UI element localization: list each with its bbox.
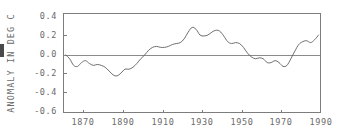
x-tick-label: 1890 — [112, 117, 135, 127]
y-axis-title: ANOMALY IN DEG C — [6, 13, 16, 112]
y-axis-tick-labels: 0.4 0.2 0.0 -0.2 -0.4 -0.6 — [34, 11, 57, 116]
y-tick-label: -0.4 — [34, 87, 57, 97]
plot-frame — [64, 14, 321, 113]
x-tick-label: 1950 — [231, 117, 254, 127]
y-tick-label: -0.6 — [34, 106, 57, 116]
x-tick-label: 1990 — [310, 117, 333, 127]
x-tick-label: 1970 — [270, 117, 293, 127]
y-tick-label: 0.4 — [40, 11, 57, 21]
x-tick-label: 1910 — [152, 117, 175, 127]
temperature-anomaly-chart: ANOMALY IN DEG C 0.4 0.2 0.0 -0.2 -0.4 -… — [0, 0, 340, 135]
x-axis-tick-labels: 1870 1890 1910 1930 1950 1970 1990 — [72, 117, 333, 127]
y-tick-label: 0.2 — [40, 30, 57, 40]
y-tick-label: -0.2 — [34, 68, 57, 78]
y-tick-label: 0.0 — [40, 49, 57, 59]
chart-plot-area: ANOMALY IN DEG C 0.4 0.2 0.0 -0.2 -0.4 -… — [0, 0, 340, 135]
x-tick-label: 1930 — [191, 117, 214, 127]
anomaly-line-series — [66, 27, 319, 76]
x-tick-label: 1870 — [72, 117, 95, 127]
